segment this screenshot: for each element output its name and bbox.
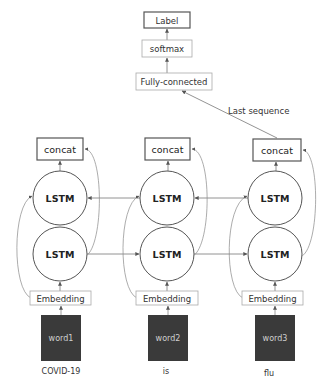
forward-lstm-to-concat-curve	[302, 150, 316, 256]
softmax-node: softmax	[142, 40, 192, 57]
last-sequence-label: Last sequence	[228, 106, 289, 116]
column-1: concat LSTM LSTM Embedding word1 COVID-1…	[17, 138, 100, 376]
backward-lstm-text: LSTM	[46, 193, 75, 204]
concat-node-text: concat	[44, 144, 76, 155]
embedding-to-backward-lstm-curve	[229, 196, 247, 298]
forward-lstm-text: LSTM	[153, 249, 182, 260]
word-block-text: word3	[263, 334, 288, 343]
embedding-node-text: Embedding	[248, 294, 296, 304]
backward-lstm-text: LSTM	[153, 193, 182, 204]
token-caption: is	[163, 367, 169, 376]
embedding-to-backward-lstm-curve	[17, 196, 32, 298]
fully-connected-node-text: Fully-connected	[141, 77, 208, 87]
forward-lstm-to-concat-curve	[85, 149, 99, 256]
embedding-node-text: Embedding	[36, 294, 84, 304]
label-node-text: Label	[156, 16, 179, 26]
forward-lstm-text: LSTM	[261, 249, 290, 260]
softmax-node-text: softmax	[150, 44, 184, 54]
label-node: Label	[144, 12, 190, 28]
column-3: concat LSTM LSTM Embedding word3 flu	[229, 139, 315, 378]
fully-connected-node: Fully-connected	[136, 73, 212, 90]
forward-lstm-text: LSTM	[46, 249, 75, 260]
concat-node-text: concat	[152, 144, 184, 155]
concat-node-text: concat	[261, 145, 293, 156]
column-2: concat LSTM LSTM Embedding word2 is	[123, 138, 207, 376]
word-block-text: word2	[156, 334, 181, 343]
forward-lstm-to-concat-curve	[192, 149, 207, 256]
token-caption: COVID-19	[42, 367, 81, 376]
backward-lstm-text: LSTM	[261, 193, 290, 204]
word-block-text: word1	[49, 334, 74, 343]
embedding-node-text: Embedding	[143, 294, 191, 304]
token-caption: flu	[264, 369, 274, 378]
bilstm-diagram: Label softmax Fully-connected Last seque…	[0, 0, 332, 389]
embedding-to-backward-lstm-curve	[123, 196, 139, 298]
